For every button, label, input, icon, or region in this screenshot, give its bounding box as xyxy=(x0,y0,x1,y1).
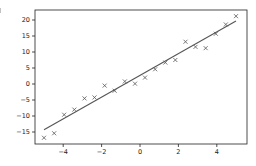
data-point-x-marker xyxy=(193,45,197,49)
scatter-chart: −4−2024−15−10−505101520 xyxy=(0,0,256,166)
data-point-x-marker xyxy=(173,58,177,62)
data-point-x-marker xyxy=(62,113,66,117)
x-tick-label: −4 xyxy=(58,148,68,156)
y-tick-label: −15 xyxy=(16,128,30,136)
y-tick-label: 0 xyxy=(26,80,30,88)
x-tick-label: 0 xyxy=(138,148,142,156)
data-point-x-marker xyxy=(143,76,147,80)
data-point-x-marker xyxy=(42,136,46,140)
data-point-x-marker xyxy=(103,84,107,88)
y-tick-label: 5 xyxy=(26,64,30,72)
x-tick-label: −2 xyxy=(97,148,107,156)
axes-frame xyxy=(35,10,247,144)
plot-area xyxy=(42,14,238,140)
x-tick-label: 2 xyxy=(176,148,180,156)
data-point-x-marker xyxy=(52,131,56,135)
data-point-x-marker xyxy=(92,95,96,99)
fit-line xyxy=(44,21,236,130)
data-point-x-marker xyxy=(72,108,76,112)
data-point-x-marker xyxy=(133,82,137,86)
x-tick-label: 4 xyxy=(215,148,219,156)
data-point-x-marker xyxy=(234,14,238,18)
data-point-x-marker xyxy=(83,96,87,100)
y-tick-label: 15 xyxy=(22,32,30,40)
y-tick-label: −10 xyxy=(16,112,30,120)
y-tick-label: 10 xyxy=(22,48,30,56)
y-tick-label: −5 xyxy=(20,96,30,104)
y-tick-label: 20 xyxy=(22,16,30,24)
axes: −4−2024−15−10−505101520 xyxy=(16,10,247,156)
data-point-x-marker xyxy=(184,40,188,44)
data-point-x-marker xyxy=(204,46,208,50)
